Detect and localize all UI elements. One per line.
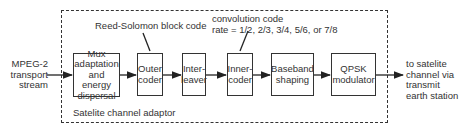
input-label: MPEG-2 transport stream [8,59,48,91]
inner-coder-block: Inner- coder [227,53,253,96]
block-text: coder [138,75,162,86]
block-text: Baseband [271,64,314,75]
mux-adaptation-block: Mux adaptation and energy dispersal [73,53,120,97]
baseband-shaping-block: Baseband shaping [271,53,314,96]
block-text: QPSK [332,64,374,75]
output-label-line: earth station [406,91,458,102]
block-text: leaver [181,75,207,86]
annotation-line: rate = 1/2, 2/3, 3/4, 5/6, or 7/8 [212,25,337,36]
output-label-line: to satelite [406,59,458,70]
input-label-line: stream [8,80,48,91]
output-label-line: transmit [406,80,458,91]
qpsk-modulator-block: QPSK modulator [331,53,376,96]
block-text: Outer [138,64,162,75]
reed-solomon-annotation: Reed-Solomon block code [95,21,206,32]
output-label: to satelite channel via transmit earth s… [406,59,458,101]
block-text: modulator [332,75,374,86]
block-text: shaping [271,75,314,86]
block-text: Inner- [228,64,253,75]
interleaver-block: Inter- leaver [182,53,206,96]
outer-coder-block: Outer coder [137,53,163,96]
frame-label: Satelite channel adaptor [73,108,175,119]
input-label-line: MPEG-2 [8,59,48,70]
block-text: coder [228,75,253,86]
block-text: dispersal [74,91,118,102]
convolution-code-annotation: convolution code rate = 1/2, 2/3, 3/4, 5… [212,14,337,35]
annotation-line: convolution code [212,14,337,25]
block-text: Inter- [181,64,207,75]
